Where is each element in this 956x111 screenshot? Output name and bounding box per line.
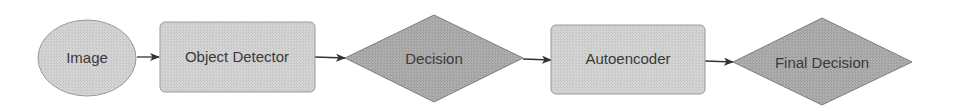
node-object-detector[interactable]: Object Detector — [160, 22, 315, 92]
node-label-autoencoder: Autoencoder — [585, 50, 670, 67]
node-decision[interactable]: Decision — [345, 15, 523, 102]
node-image[interactable]: Image — [38, 20, 136, 96]
node-final-decision[interactable]: Final Decision — [733, 18, 912, 105]
node-label-final-decision: Final Decision — [775, 54, 869, 71]
edge-decision-to-autoencoder — [523, 59, 551, 60]
node-label-object-detector: Object Detector — [185, 48, 289, 65]
edge-object-detector-to-decision — [315, 57, 345, 58]
node-autoencoder[interactable]: Autoencoder — [551, 25, 705, 94]
edge-autoencoder-to-final-decision — [705, 61, 733, 62]
node-label-image: Image — [66, 49, 108, 66]
flowchart-canvas: Image Object Detector Decision Autoencod… — [0, 0, 956, 111]
node-label-decision: Decision — [405, 50, 463, 67]
